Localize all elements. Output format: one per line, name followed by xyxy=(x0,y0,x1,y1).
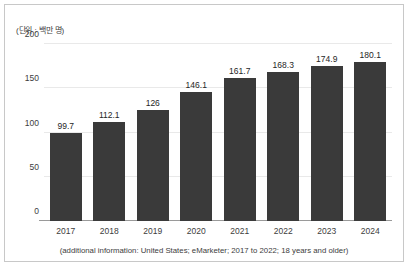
bar-value-label: 168.3 xyxy=(273,60,294,70)
bar-value-label: 146.1 xyxy=(186,80,207,90)
bar-slot: 146.12020 xyxy=(175,44,219,221)
bar[interactable]: 180.12024 xyxy=(354,62,386,221)
bar[interactable]: 99.72017 xyxy=(50,133,82,221)
bar-value-label: 174.9 xyxy=(316,54,337,64)
y-axis-tick-label: 200 xyxy=(25,29,39,39)
bar-slot: 112.12018 xyxy=(88,44,132,221)
x-axis-category-label: 2019 xyxy=(143,226,162,236)
chart-container: (단위 : 백만 명) 050100150200 99.72017112.120… xyxy=(4,4,404,262)
bar[interactable]: 168.32022 xyxy=(267,72,299,221)
x-axis-category-label: 2023 xyxy=(317,226,336,236)
bar[interactable]: 1262019 xyxy=(137,110,169,222)
bar-slot: 174.92023 xyxy=(305,44,349,221)
bar-value-label: 112.1 xyxy=(99,110,120,120)
bar[interactable]: 146.12020 xyxy=(180,92,212,221)
y-axis-tick-label: 0 xyxy=(34,206,39,216)
bar-value-label: 99.7 xyxy=(57,121,74,131)
bar-value-label: 161.7 xyxy=(229,66,250,76)
bar[interactable]: 174.92023 xyxy=(311,66,343,221)
x-axis-category-label: 2022 xyxy=(274,226,293,236)
bar-slot: 99.72017 xyxy=(44,44,88,221)
y-axis-tick-label: 100 xyxy=(25,118,39,128)
y-axis-tick-label: 50 xyxy=(30,162,39,172)
bar-value-label: 126 xyxy=(146,98,160,108)
x-axis-category-label: 2020 xyxy=(187,226,206,236)
x-axis-category-label: 2021 xyxy=(230,226,249,236)
bar-slot: 1262019 xyxy=(131,44,175,221)
y-axis-tick-label: 150 xyxy=(25,73,39,83)
bar-slot: 161.72021 xyxy=(218,44,262,221)
bar[interactable]: 112.12018 xyxy=(93,122,125,221)
y-axis-unit-label: (단위 : 백만 명) xyxy=(16,24,64,35)
bar-series: 99.72017112.120181262019146.12020161.720… xyxy=(44,44,392,221)
bar-slot: 180.12024 xyxy=(349,44,393,221)
bar-slot: 168.32022 xyxy=(262,44,306,221)
bar[interactable]: 161.72021 xyxy=(224,78,256,221)
plot-area: 050100150200 99.72017112.120181262019146… xyxy=(44,44,392,221)
x-axis-category-label: 2018 xyxy=(100,226,119,236)
bar-value-label: 180.1 xyxy=(360,50,381,60)
x-axis-category-label: 2024 xyxy=(361,226,380,236)
x-axis-category-label: 2017 xyxy=(56,226,75,236)
chart-footnote: (additional information: United States; … xyxy=(5,246,403,255)
